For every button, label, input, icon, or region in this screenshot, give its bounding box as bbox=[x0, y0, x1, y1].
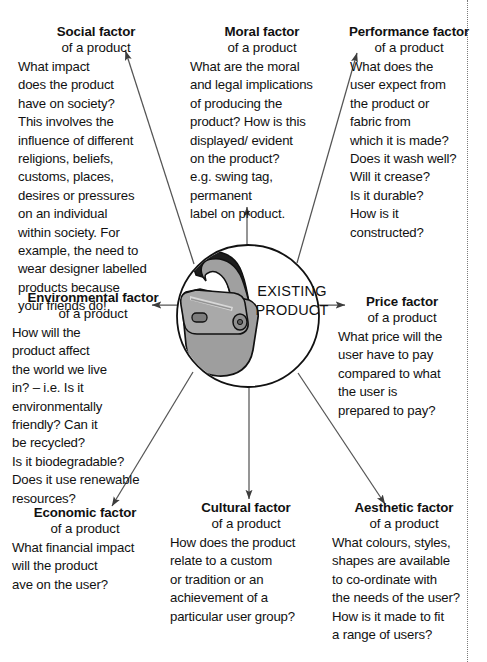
factor-body-price: What price will the user have to pay com… bbox=[326, 328, 478, 420]
factor-title-moral: Moral factor bbox=[182, 24, 342, 40]
factor-subtitle-performance: of a product bbox=[334, 40, 484, 56]
factor-block-aesthetic: Aesthetic factor of a product What colou… bbox=[324, 500, 484, 644]
factor-body-social: What impact does the product have on soc… bbox=[6, 58, 186, 316]
factor-block-performance: Performance factor of a product What doe… bbox=[334, 24, 484, 242]
factor-block-price: Price factor of a product What price wil… bbox=[326, 294, 478, 420]
factor-block-environmental: Environmental factor of a product How wi… bbox=[2, 290, 184, 508]
center-label-line1: EXISTING bbox=[247, 282, 337, 301]
factor-title-performance: Performance factor bbox=[334, 24, 484, 40]
factor-body-performance: What does the user expect from the produ… bbox=[334, 58, 484, 242]
factor-subtitle-economic: of a product bbox=[4, 521, 166, 537]
factor-block-economic: Economic factor of a product What financ… bbox=[4, 505, 166, 594]
factor-body-environmental: How will the product affect the world we… bbox=[2, 324, 184, 508]
factor-subtitle-moral: of a product bbox=[182, 40, 342, 56]
factor-subtitle-social: of a product bbox=[6, 40, 186, 56]
factor-subtitle-cultural: of a product bbox=[164, 516, 328, 532]
factor-subtitle-price: of a product bbox=[326, 310, 478, 326]
factor-body-cultural: How does the product relate to a custom … bbox=[164, 534, 328, 626]
factor-title-aesthetic: Aesthetic factor bbox=[324, 500, 484, 516]
diagram-canvas: EXISTING PRODUCT Social factor of a prod… bbox=[0, 0, 487, 662]
factor-subtitle-aesthetic: of a product bbox=[324, 516, 484, 532]
factor-body-aesthetic: What colours, styles, shapes are availab… bbox=[324, 534, 484, 644]
factor-subtitle-environmental: of a product bbox=[2, 306, 184, 322]
factor-title-cultural: Cultural factor bbox=[164, 500, 328, 516]
bag-ring-hole bbox=[237, 319, 242, 324]
center-label: EXISTING PRODUCT bbox=[247, 282, 337, 320]
factor-block-social: Social factor of a product What impact d… bbox=[6, 24, 186, 316]
center-label-line2: PRODUCT bbox=[247, 301, 337, 320]
factor-block-moral: Moral factor of a product What are the m… bbox=[182, 24, 342, 224]
factor-body-moral: What are the moral and legal implication… bbox=[182, 58, 342, 224]
bag-clasp bbox=[192, 313, 207, 322]
factor-title-price: Price factor bbox=[326, 294, 478, 310]
factor-title-economic: Economic factor bbox=[4, 505, 166, 521]
factor-block-cultural: Cultural factor of a product How does th… bbox=[164, 500, 328, 626]
factor-title-social: Social factor bbox=[6, 24, 186, 40]
factor-title-environmental: Environmental factor bbox=[2, 290, 184, 306]
factor-body-economic: What financial impact will the product a… bbox=[4, 539, 166, 594]
